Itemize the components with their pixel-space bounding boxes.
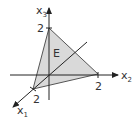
x3-axis-label: x3	[36, 4, 47, 19]
x2-axis-label: x2	[121, 69, 132, 84]
x1-axis-label: x1	[17, 104, 28, 119]
plane-e	[33, 28, 98, 89]
x2-intercept-label: 2	[95, 80, 102, 93]
x3-intercept-label: 2	[37, 22, 44, 35]
coordinate-diagram: x3 x2 x1 2 2 2 E	[0, 0, 138, 123]
plane-label: E	[53, 47, 60, 60]
x1-intercept-label: 2	[33, 93, 40, 106]
